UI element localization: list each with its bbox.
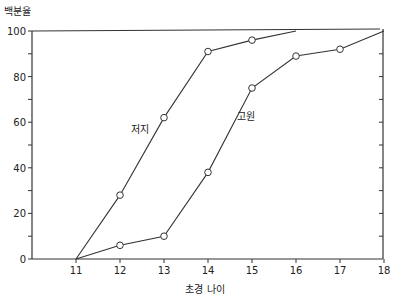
x-tick-label: 15 bbox=[246, 265, 259, 276]
y-tick-label: 80 bbox=[13, 72, 26, 83]
chart: 백분율 0204060801001112131415161718 저지고원 초경… bbox=[0, 0, 396, 303]
series-label: 저지 bbox=[131, 124, 149, 135]
y-tick-label: 0 bbox=[20, 254, 26, 265]
x-tick-label: 18 bbox=[378, 265, 391, 276]
y-axis-label: 백분율 bbox=[4, 6, 31, 17]
data-point-marker bbox=[205, 48, 212, 55]
data-point-marker bbox=[117, 242, 124, 249]
series-layer: 저지고원 bbox=[76, 31, 384, 259]
y-tick-label: 60 bbox=[13, 117, 26, 128]
x-tick-label: 12 bbox=[114, 265, 127, 276]
series-line-1 bbox=[76, 31, 384, 259]
top-line bbox=[32, 29, 380, 31]
y-tick-label: 40 bbox=[13, 163, 26, 174]
data-point-marker bbox=[249, 85, 256, 92]
data-point-marker bbox=[293, 53, 300, 60]
x-tick-label: 14 bbox=[202, 265, 215, 276]
series-line-0 bbox=[76, 31, 296, 259]
x-tick-label: 16 bbox=[290, 265, 303, 276]
data-point-marker bbox=[249, 37, 256, 44]
data-point-marker bbox=[337, 46, 344, 53]
y-tick-label: 100 bbox=[7, 26, 26, 37]
axes: 0204060801001112131415161718 bbox=[7, 26, 390, 276]
x-tick-label: 13 bbox=[158, 265, 171, 276]
data-point-marker bbox=[205, 169, 212, 176]
series-label: 고원 bbox=[237, 111, 255, 122]
x-axis-label: 초경 나이 bbox=[185, 283, 224, 295]
data-point-marker bbox=[161, 114, 168, 121]
y-tick-label: 20 bbox=[13, 208, 26, 219]
x-tick-label: 17 bbox=[334, 265, 347, 276]
data-point-marker bbox=[117, 192, 124, 199]
data-point-marker bbox=[161, 233, 168, 240]
x-tick-label: 11 bbox=[70, 265, 83, 276]
